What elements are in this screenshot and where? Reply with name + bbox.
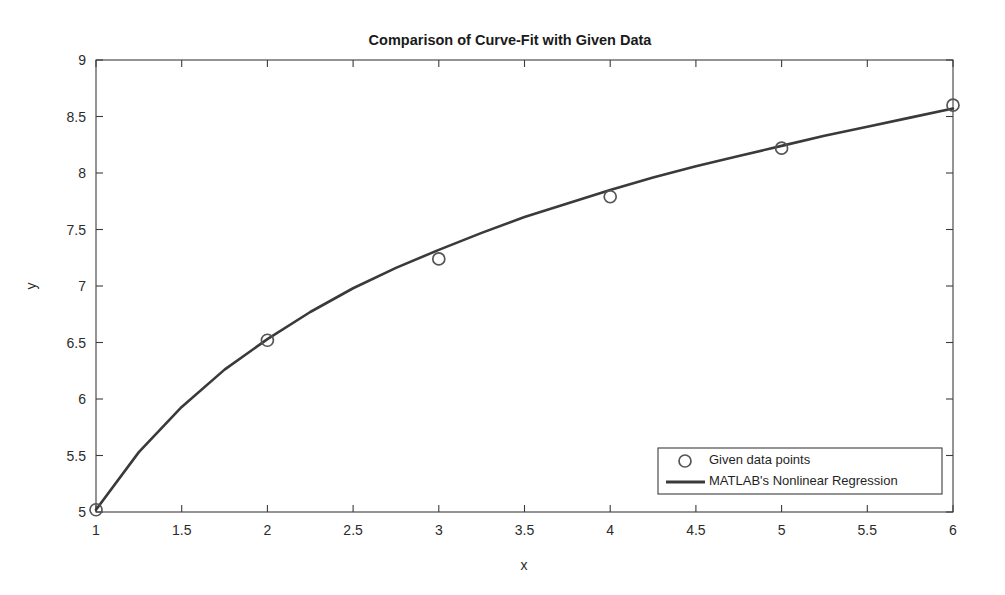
y-tick-label: 6.5 xyxy=(67,335,87,351)
chart-plot: Comparison of Curve-Fit with Given Data … xyxy=(0,0,1005,595)
figure-canvas: Comparison of Curve-Fit with Given Data … xyxy=(0,0,1005,595)
x-tick-label: 3 xyxy=(435,522,443,538)
chart-title: Comparison of Curve-Fit with Given Data xyxy=(369,32,653,48)
legend-label-1: MATLAB's Nonlinear Regression xyxy=(709,473,898,488)
x-axis-title: x xyxy=(521,557,528,573)
x-tick-label: 6 xyxy=(949,522,957,538)
axes-frame xyxy=(96,60,953,512)
y-tick-label: 5 xyxy=(78,504,86,520)
x-tick-label: 1 xyxy=(92,522,100,538)
y-axis-title: y xyxy=(23,283,39,290)
x-tick-label: 5.5 xyxy=(858,522,878,538)
y-tick-label: 7 xyxy=(78,278,86,294)
y-tick-label: 9 xyxy=(78,52,86,68)
x-tick-label: 5 xyxy=(778,522,786,538)
x-tick-label: 3.5 xyxy=(515,522,535,538)
x-tick-label: 2 xyxy=(264,522,272,538)
y-tick-label: 8.5 xyxy=(67,109,87,125)
x-tick-label: 1.5 xyxy=(172,522,192,538)
legend-label-0: Given data points xyxy=(709,452,811,467)
y-tick-label: 7.5 xyxy=(67,222,87,238)
y-tick-label: 6 xyxy=(78,391,86,407)
y-tick-label: 8 xyxy=(78,165,86,181)
data-point-marker xyxy=(433,253,445,265)
data-point-marker xyxy=(604,191,616,203)
x-tick-label: 2.5 xyxy=(343,522,363,538)
y-tick-label: 5.5 xyxy=(67,448,87,464)
x-tick-label: 4 xyxy=(606,522,614,538)
x-tick-label: 4.5 xyxy=(686,522,706,538)
chart-legend[interactable]: Given data points MATLAB's Nonlinear Reg… xyxy=(658,448,942,494)
